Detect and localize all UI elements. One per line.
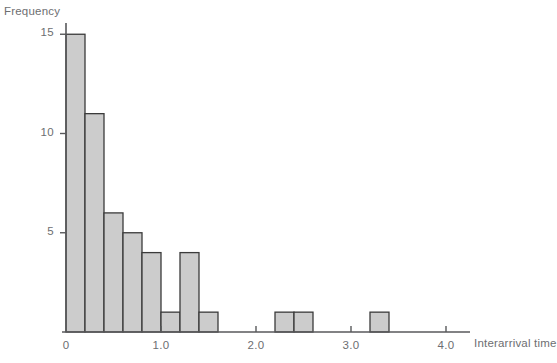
histogram-bar <box>161 312 180 332</box>
x-tick-label: 0 <box>41 339 91 351</box>
histogram-bar <box>275 312 294 332</box>
y-tick-label: 15 <box>10 26 54 38</box>
histogram-bar <box>294 312 313 332</box>
x-tick-label: 3.0 <box>326 339 376 351</box>
bars-group <box>66 34 389 332</box>
histogram-bar <box>104 213 123 332</box>
histogram-bar <box>85 114 104 332</box>
y-axis-title: Frequency <box>4 5 60 17</box>
histogram-bar <box>123 233 142 332</box>
x-tick-label: 1.0 <box>136 339 186 351</box>
x-tick-label: 2.0 <box>231 339 281 351</box>
x-tick-label: 4.0 <box>421 339 471 351</box>
y-tick-label: 5 <box>10 225 54 237</box>
y-tick-label: 10 <box>10 126 54 138</box>
x-axis-title: Interarrival time <box>474 337 557 349</box>
histogram-bar <box>142 253 161 332</box>
histogram-bar <box>370 312 389 332</box>
histogram-bar <box>180 253 199 332</box>
histogram-bar <box>66 34 85 332</box>
histogram-bar <box>199 312 218 332</box>
